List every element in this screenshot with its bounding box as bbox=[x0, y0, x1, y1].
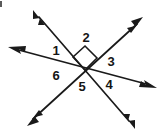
angle-label-5: 5 bbox=[78, 79, 85, 94]
angle-label-3: 3 bbox=[107, 54, 114, 69]
scan-artifact-speck bbox=[0, 1, 2, 7]
angle-label-1: 1 bbox=[52, 43, 59, 58]
angle-label-6: 6 bbox=[52, 68, 59, 83]
angles-diagram-svg: Six angles formed by three intersecting … bbox=[0, 0, 163, 134]
geometry-figure: Six angles formed by three intersecting … bbox=[0, 0, 163, 134]
angle-label-4: 4 bbox=[105, 77, 113, 92]
angle-label-2: 2 bbox=[82, 30, 89, 45]
